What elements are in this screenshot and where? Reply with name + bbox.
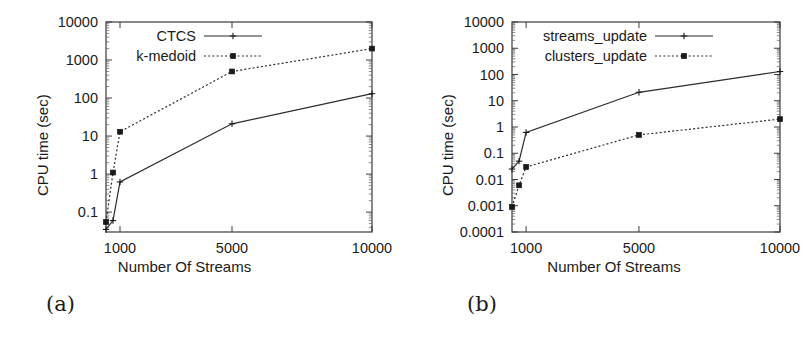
- chart-b-y-axis-label: CPU time (sec): [439, 94, 456, 196]
- legend-label-k-medoid: k-medoid: [136, 48, 196, 64]
- x-tick-label: 1000: [510, 240, 542, 256]
- chart-b-x-axis-label: Number Of Streams: [411, 258, 811, 275]
- series-CTCS: [103, 91, 375, 233]
- y-tick-label: 0.01: [476, 172, 504, 188]
- series-clusters_update: [510, 117, 783, 210]
- chart-a-y-axis-label: CPU time (sec): [34, 94, 51, 196]
- chart-a-caption: (a): [0, 292, 263, 316]
- legend-label-streams_update: streams_update: [543, 28, 647, 44]
- legend: streams_updateclusters_update: [543, 28, 713, 64]
- figure-container: 0.11101001000100001000500010000CTCSk-med…: [0, 0, 811, 343]
- y-tick-label: 0.001: [468, 198, 504, 214]
- y-tick-label: 1: [496, 119, 504, 135]
- chart-a-x-axis-label: Number Of Streams: [0, 258, 387, 275]
- legend-label-clusters_update: clusters_update: [545, 48, 647, 64]
- series-k-medoid: [104, 46, 375, 224]
- y-tick-label: 0.1: [78, 204, 98, 220]
- chart-b-caption: (b): [279, 292, 685, 316]
- chart-panel-b: 0.00010.0010.010.11101001000100001000500…: [405, 0, 811, 343]
- x-tick-label: 1000: [104, 240, 136, 256]
- y-tick-label: 1000: [66, 52, 98, 68]
- x-tick-label: 10000: [352, 240, 392, 256]
- y-tick-label: 10000: [58, 14, 98, 30]
- x-tick-label: 10000: [760, 240, 800, 256]
- legend-label-CTCS: CTCS: [157, 28, 196, 44]
- y-tick-label: 10000: [464, 14, 504, 30]
- y-tick-label: 1000: [472, 40, 504, 56]
- y-tick-label: 0.1: [484, 145, 504, 161]
- y-tick-label: 0.0001: [460, 224, 504, 240]
- y-tick-label: 100: [480, 67, 504, 83]
- y-tick-label: 10: [488, 93, 504, 109]
- y-tick-label: 100: [74, 90, 98, 106]
- y-tick-label: 1: [90, 166, 98, 182]
- y-tick-label: 10: [82, 128, 98, 144]
- x-tick-label: 5000: [216, 240, 248, 256]
- x-tick-label: 5000: [623, 240, 655, 256]
- legend: CTCSk-medoid: [136, 28, 262, 64]
- series-streams_update: [509, 68, 783, 172]
